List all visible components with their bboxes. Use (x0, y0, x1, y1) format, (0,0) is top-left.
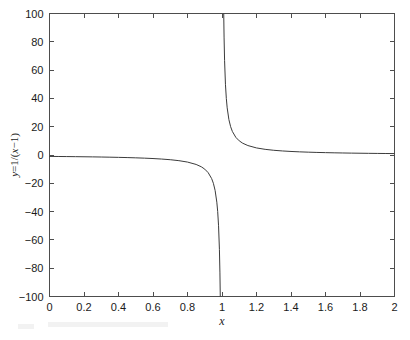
axes-frame (50, 14, 395, 297)
x-tick-label-10: 2 (391, 301, 397, 313)
x-tick-label-1: 0.2 (76, 301, 91, 313)
y-tick-label-6: 20 (31, 121, 43, 133)
y-tick-label-5: 0 (37, 149, 43, 161)
scan-artifact (18, 324, 34, 329)
y-tick-labels: −100−80−60−40−20020406080100 (19, 8, 44, 303)
y-tick-label-8: 60 (31, 64, 43, 76)
y-tick-label-0: −100 (19, 291, 44, 303)
y-tick-label-3: −40 (25, 206, 44, 218)
data-curves (50, 14, 395, 297)
y-axis-label: y=1/(x−1) (8, 133, 21, 178)
y-tick-marks (50, 14, 395, 297)
x-tick-label-9: 1.8 (352, 301, 367, 313)
y-tick-label-2: −60 (25, 234, 44, 246)
x-tick-label-8: 1.6 (318, 301, 333, 313)
x-tick-label-5: 1 (219, 301, 225, 313)
figure-canvas: 00.20.40.60.811.21.41.61.82 −100−80−60−4… (0, 0, 410, 340)
y-tick-label-4: −20 (25, 177, 44, 189)
curve-left-branch (50, 156, 221, 296)
y-tick-label-9: 80 (31, 36, 43, 48)
x-tick-label-0: 0 (46, 301, 52, 313)
y-tick-label-1: −80 (25, 262, 44, 274)
x-tick-labels: 00.20.40.60.811.21.41.61.82 (46, 301, 397, 313)
x-axis-label: x (218, 314, 225, 328)
x-tick-label-2: 0.4 (111, 301, 126, 313)
x-tick-label-4: 0.8 (180, 301, 195, 313)
y-axis-label-text: y=1/(x−1) (8, 133, 21, 178)
scan-artifact-2 (48, 322, 168, 327)
x-tick-label-7: 1.4 (283, 301, 298, 313)
plot-svg: 00.20.40.60.811.21.41.61.82 −100−80−60−4… (0, 0, 410, 340)
x-tick-label-3: 0.6 (145, 301, 160, 313)
x-tick-marks (50, 14, 395, 297)
x-tick-label-6: 1.2 (249, 301, 264, 313)
y-tick-label-10: 100 (25, 8, 43, 20)
axes-box (50, 14, 395, 297)
y-tick-label-7: 40 (31, 92, 43, 104)
curve-right-branch (224, 14, 395, 154)
